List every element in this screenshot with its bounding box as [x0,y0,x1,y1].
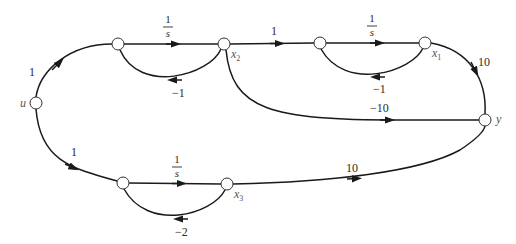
node-n1 [112,38,124,50]
gain-x1-n3: −1 [373,82,386,96]
edge-u-to-n5: 1 [36,109,117,181]
gain-n1-x2-num: 1 [165,13,171,25]
signal-flow-graph: 1 1 s −1 1 1 s −1 10 [0,0,516,244]
node-x2-label: x2 [230,47,240,63]
node-u [30,97,42,109]
gain-u-n1: 1 [29,65,35,79]
edge-n3-to-x1: 1 s [326,12,419,43]
gain-u-n5: 1 [71,145,77,159]
edge-x2-to-n1-feedback: −1 [120,49,221,100]
gain-n5-x3-num: 1 [174,153,180,165]
edge-n1-to-x2: 1 s [124,13,218,44]
edge-x1-to-n3-feedback: −1 [321,48,423,96]
node-x1 [419,37,431,49]
node-u-label: u [20,96,26,110]
node-y-label: y [495,112,502,126]
gain-x2-n3: 1 [271,24,277,38]
node-x2 [218,38,230,50]
node-y [479,114,491,126]
gain-n5-x3-den: s [175,167,179,179]
edge-n5-to-x3: 1 s [129,153,221,184]
gain-x1-y: 10 [478,55,490,69]
gain-x2-n1: −1 [172,86,185,100]
edge-u-to-n1: 1 [29,44,112,97]
gain-x2-y: −10 [370,101,389,115]
gain-n3-x1-num: 1 [369,12,375,24]
gain-x3-n5: −2 [175,225,188,239]
node-n3 [314,37,326,49]
node-x3 [221,178,233,190]
node-x3-label: x3 [233,187,243,203]
edge-x3-to-y: 10 [233,126,485,184]
gain-n3-x1-den: s [370,26,374,38]
gain-x3-y: 10 [346,161,358,175]
gain-n1-x2-den: s [166,27,170,39]
edge-x2-to-n3: 1 [230,24,314,44]
edge-x3-to-n5-feedback: −2 [124,189,225,239]
node-x1-label: x1 [431,46,441,62]
node-n5 [117,177,129,189]
